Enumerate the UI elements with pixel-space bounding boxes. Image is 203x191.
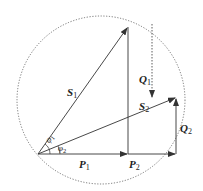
label-phi2: φ2 <box>58 143 66 154</box>
label-phi1: φ1 <box>43 132 56 145</box>
phi1-arc <box>45 144 50 154</box>
power-vector-diagram: S1 S2 Q1 Q2 P1 P2 φ1 φ2 <box>0 0 203 191</box>
label-q1: Q1 <box>139 73 151 87</box>
label-q2: Q2 <box>180 122 192 136</box>
label-s1: S1 <box>67 86 77 100</box>
label-p1: P1 <box>79 158 90 172</box>
label-p2: P2 <box>129 158 140 172</box>
label-s2: S2 <box>139 100 149 114</box>
dotted-circle <box>17 16 185 184</box>
